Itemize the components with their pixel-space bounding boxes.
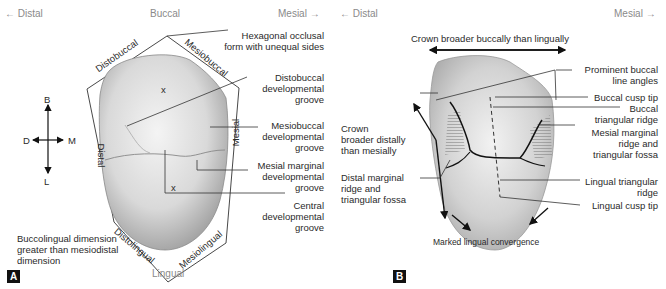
- direction-distal-a: ← Distal: [5, 8, 43, 19]
- callout-lingual-triangular-ridge: Lingual triangularridge: [585, 176, 658, 198]
- callout-dimension-note: Buccolingual dimensiongreater than mesio…: [17, 233, 118, 266]
- callout-hexagonal: Hexagonal occlusalform with unequal side…: [224, 30, 324, 52]
- direction-mesial-a: Mesial →: [278, 8, 320, 19]
- cusp-mark-lingual: x: [171, 182, 176, 193]
- compass-l: L: [44, 176, 49, 187]
- compass-b: B: [44, 94, 50, 105]
- panel-badge-b: B: [393, 270, 406, 283]
- callout-crown-broader-distally: Crownbroader distallythan mesially: [341, 123, 405, 156]
- panel-badge-a: A: [7, 270, 20, 283]
- callout-mesial-marginal-ridge: Mesial marginalridge andtriangular fossa: [591, 127, 658, 160]
- callout-buccal-triangular-ridge: Buccaltriangular ridge: [595, 103, 658, 125]
- callout-central-groove: Centraldevelopmentalgroove: [262, 200, 324, 233]
- direction-mesial-b: Mesial →: [614, 8, 656, 19]
- compass-d: D: [23, 135, 30, 146]
- callout-buccal-cusp-tip: Buccal cusp tip: [594, 92, 658, 103]
- direction-distal-b: ← Distal: [340, 8, 378, 19]
- callout-mesial-marginal-groove: Mesial marginaldevelopmentalgroove: [257, 160, 324, 193]
- callout-distal-marginal-ridge: Distal marginalridge andtriangular fossa: [341, 172, 406, 205]
- cusp-mark-buccal: x: [161, 84, 166, 95]
- direction-buccal-a: Buccal: [150, 8, 180, 19]
- compass-m: M: [68, 135, 76, 146]
- compass-arrows: [33, 105, 63, 173]
- callout-lingual-cusp-tip: Lingual cusp tip: [592, 200, 658, 211]
- callout-marked-lingual-convergence: Marked lingual convergence: [433, 237, 539, 248]
- tooth-proximal-view-b: [430, 56, 554, 250]
- callout-distobuccal-groove: Distobuccaldevelopmentalgroove: [262, 72, 324, 105]
- callout-prominent-line-angles: Prominent buccalline angles: [585, 64, 658, 86]
- callout-crown-broader-buccally: Crown broader buccally than lingually: [411, 33, 569, 44]
- side-label-mesial: Mesial: [230, 119, 241, 146]
- side-label-distal: Distal: [96, 144, 107, 168]
- direction-lingual-a: Lingual: [152, 268, 184, 279]
- callout-mesiobuccal-groove: Mesiobuccaldevelopmentalgroove: [262, 120, 324, 153]
